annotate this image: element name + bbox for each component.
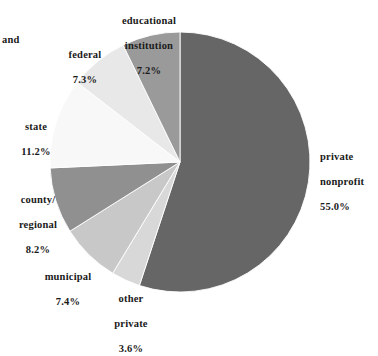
callout-state-line1: state (2, 121, 70, 134)
callout-private-line1: private (320, 151, 378, 164)
callout-county-regional: county/ regional 8.2% (2, 181, 74, 269)
callout-federal: federal 7.3% (40, 36, 130, 99)
callout-state-percent: 11.2% (2, 146, 70, 159)
callout-county-percent: 8.2% (2, 244, 74, 257)
callout-federal-percent: 7.3% (40, 74, 130, 87)
callout-private-nonprofit: private nonprofit 55.0% (320, 138, 378, 226)
callout-other-private: other private 3.6% (92, 280, 170, 356)
stray-text-and: and (2, 21, 20, 59)
callout-other-line1: other (92, 293, 170, 306)
stray-text-label: and (2, 34, 20, 47)
callout-other-percent: 3.6% (92, 343, 170, 356)
callout-private-percent: 55.0% (320, 201, 378, 214)
callout-educational-line1: educational (96, 15, 202, 28)
callout-other-line2: private (92, 318, 170, 331)
callout-federal-line1: federal (40, 49, 130, 62)
callout-county-line2: regional (2, 219, 74, 232)
callout-county-line1: county/ (2, 194, 74, 207)
callout-private-line2: nonprofit (320, 176, 378, 189)
callout-state: state 11.2% (2, 108, 70, 171)
